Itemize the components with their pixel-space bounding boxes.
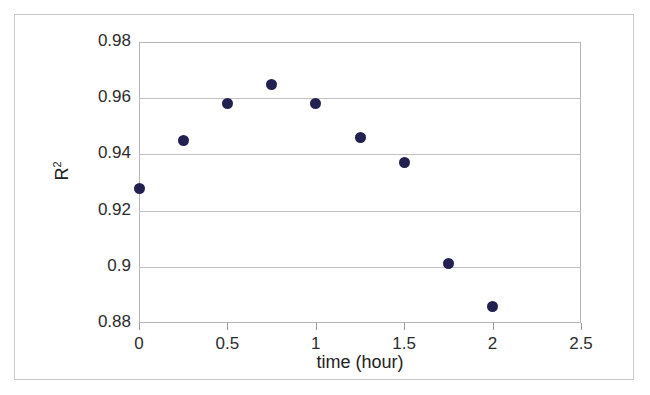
x-tick-label: 0.5 — [187, 334, 267, 354]
y-tick-label: 0.9 — [49, 256, 131, 276]
data-point — [178, 135, 189, 146]
data-point — [355, 132, 366, 143]
x-axis-label: time (hour) — [139, 352, 581, 373]
y-tick-label: 0.98 — [49, 31, 131, 51]
gridline-horizontal — [139, 267, 581, 268]
x-tick-mark — [404, 323, 405, 330]
data-point — [134, 183, 145, 194]
x-tick-mark — [581, 323, 582, 330]
scatter-chart-figure: 0.880.90.920.940.960.98 00.511.522.5 tim… — [0, 0, 650, 395]
chart-screenshot: 0.880.90.920.940.960.98 00.511.522.5 tim… — [0, 0, 650, 395]
x-tick-label: 2.5 — [541, 334, 621, 354]
x-tick-label: 1.5 — [364, 334, 444, 354]
x-tick-label: 1 — [276, 334, 356, 354]
x-tick-mark — [139, 323, 140, 330]
y-axis-label: R2 — [51, 141, 73, 201]
data-point — [487, 301, 498, 312]
data-point — [399, 157, 410, 168]
data-point — [266, 79, 277, 90]
gridline-horizontal — [139, 211, 581, 212]
x-tick-mark — [227, 323, 228, 330]
y-axis-label-exponent: 2 — [51, 161, 63, 167]
x-tick-mark — [316, 323, 317, 330]
gridline-horizontal — [139, 98, 581, 99]
x-tick-label: 0 — [99, 334, 179, 354]
y-tick-label: 0.92 — [49, 200, 131, 220]
y-tick-label: 0.88 — [49, 312, 131, 332]
plot-area — [139, 42, 581, 323]
y-axis-label-base: R — [52, 168, 72, 181]
gridline-horizontal — [139, 154, 581, 155]
x-tick-label: 2 — [453, 334, 533, 354]
x-tick-mark — [493, 323, 494, 330]
y-tick-label: 0.96 — [49, 87, 131, 107]
